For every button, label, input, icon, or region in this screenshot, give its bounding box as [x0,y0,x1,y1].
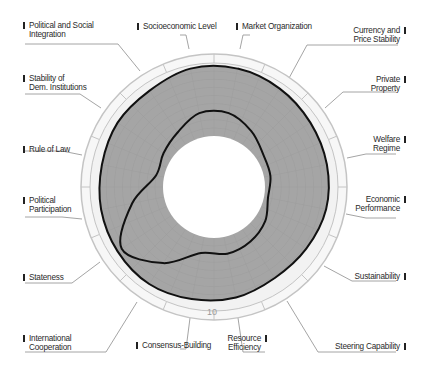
radar-chart [0,0,426,373]
scale-tick-label: 10 [207,307,217,317]
label-stability-dem-institutions: Stability ofDem. Institutions [23,74,87,92]
marker-icon [137,23,139,30]
marker-icon [23,335,25,342]
marker-icon [136,342,138,349]
marker-icon [404,343,406,350]
marker-icon [236,23,238,30]
marker-icon [404,27,406,34]
label-international-cooperation: InternationalCooperation [23,334,71,352]
marker-icon [23,274,25,281]
center-core [163,136,265,238]
label-steering-capability: Steering Capability [335,342,406,351]
label-consensus-building: Consensus-Building [136,341,211,350]
label-private-property: PrivateProperty [371,75,406,93]
marker-icon [23,146,25,153]
marker-icon [404,273,406,280]
marker-icon [404,136,406,143]
marker-icon [23,197,25,204]
label-socioeconomic-level: Socioeconomic Level [137,22,217,31]
marker-icon [404,76,406,83]
label-political-social-integration: Political and SocialIntegration [23,21,94,39]
label-rule-of-law: Rule of Law [23,145,70,154]
label-market-organization: Market Organization [236,22,312,31]
label-economic-performance: EconomicPerformance [355,195,406,213]
label-resource-efficiency: ResourceEfficiency [228,334,267,352]
marker-icon [265,335,267,342]
label-sustainability: Sustainability [355,272,406,281]
label-currency-price-stability: Currency andPrice Stability [353,26,406,44]
label-welfare-regime: WelfareRegime [373,135,406,153]
label-political-participation: PoliticalParticipation [23,196,71,214]
marker-icon [404,196,406,203]
label-stateness: Stateness [23,273,64,282]
marker-icon [23,75,25,82]
marker-icon [23,22,25,29]
